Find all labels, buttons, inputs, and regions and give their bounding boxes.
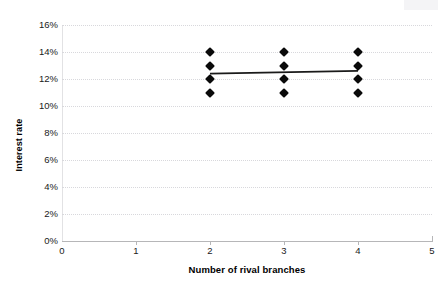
y-tick-label: 12% <box>12 74 58 84</box>
y-tick-label: 6% <box>12 155 58 165</box>
x-tick-label: 3 <box>272 246 296 256</box>
scan-artifact <box>404 0 438 10</box>
gridline-horizontal <box>62 25 432 26</box>
y-tick-label: 16% <box>12 20 58 30</box>
gridline-horizontal <box>62 133 432 134</box>
y-tick-label: 4% <box>12 182 58 192</box>
chart-screenshot: Interest rate 0%2%4%6%8%10%12%14%16% 012… <box>0 0 446 290</box>
gridline-horizontal <box>62 187 432 188</box>
x-tick-label: 2 <box>198 246 222 256</box>
x-tick-label: 1 <box>124 246 148 256</box>
y-tick-label: 8% <box>12 128 58 138</box>
y-tick-label: 10% <box>12 101 58 111</box>
x-axis-title: Number of rival branches <box>62 264 432 275</box>
x-axis-end-cap <box>432 236 433 242</box>
x-tick-label: 0 <box>50 246 74 256</box>
y-tick-label: 0% <box>12 236 58 246</box>
x-axis-ticks: 012345 <box>62 241 432 261</box>
gridline-horizontal <box>62 79 432 80</box>
gridline-horizontal <box>62 52 432 53</box>
y-tick-label: 14% <box>12 47 58 57</box>
gridline-horizontal <box>62 160 432 161</box>
plot-area <box>62 25 432 241</box>
y-tick-label: 2% <box>12 209 58 219</box>
x-tick-label: 4 <box>346 246 370 256</box>
gridline-horizontal <box>62 106 432 107</box>
gridline-horizontal <box>62 214 432 215</box>
x-tick-label: 5 <box>420 246 444 256</box>
